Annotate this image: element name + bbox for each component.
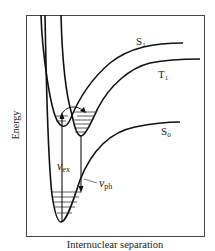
y-axis-label: Energy: [10, 111, 21, 140]
jablonski-potential-diagram: S1 T1 S0 νex νph Energy Internuclear sep…: [0, 0, 215, 251]
nu-ph-leader-line: [84, 179, 97, 183]
x-axis-label: Internuclear separation: [67, 239, 164, 250]
s1-label: S1: [136, 35, 146, 49]
t1-label: T1: [158, 68, 169, 82]
nu-ex-label: νex: [57, 159, 70, 174]
t1-vibrational-levels: [73, 112, 97, 132]
s0-vibrational-levels: [52, 192, 81, 213]
s0-curve: [45, 15, 180, 222]
s0-label: S0: [161, 125, 171, 139]
nu-ph-label: νph: [99, 176, 112, 191]
t1-curve: [61, 15, 200, 136]
